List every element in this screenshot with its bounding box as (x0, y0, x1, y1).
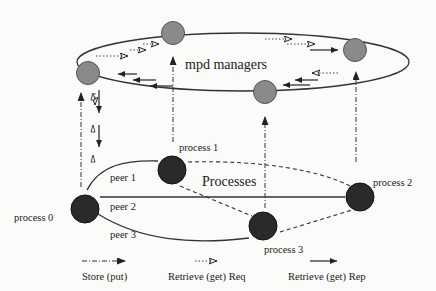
process-node-3 (249, 212, 277, 240)
process-0-label: process 0 (14, 212, 53, 223)
legend: Store (put) Retrieve (get) Req Retrieve … (82, 261, 366, 283)
req-markers-vertical (91, 93, 95, 162)
processes-label: Processes (202, 174, 256, 189)
process-node-2 (346, 183, 374, 211)
legend-rep-label: Retrieve (get) Rep (288, 271, 366, 283)
retrieve-req-arrows (95, 39, 338, 105)
process-3-label: process 3 (264, 244, 303, 255)
legend-store-label: Store (put) (82, 271, 128, 283)
manager-node (162, 22, 185, 45)
peer-1-label: peer 1 (110, 172, 136, 183)
process-1-label: process 1 (179, 142, 218, 153)
process-2-label: process 2 (373, 177, 412, 188)
ring-label: mpd managers (185, 57, 267, 72)
process-nodes (71, 156, 374, 240)
manager-node (344, 39, 367, 62)
process-node-1 (158, 156, 186, 184)
manager-node (77, 62, 100, 85)
manager-node (254, 81, 277, 104)
mpd-diagram: mpd managers Processes process 0 process… (0, 0, 436, 291)
diagram-canvas: mpd managers Processes process 0 process… (0, 0, 436, 291)
process-node-0 (71, 195, 99, 223)
peer-2-label: peer 2 (110, 201, 136, 212)
legend-req-label: Retrieve (get) Req (168, 271, 246, 283)
peer-3-label: peer 3 (110, 229, 136, 240)
